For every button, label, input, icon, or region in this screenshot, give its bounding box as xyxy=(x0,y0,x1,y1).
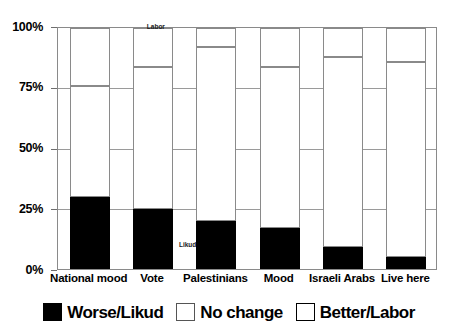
bar-segment-no-change[interactable] xyxy=(386,62,426,257)
bar-stack xyxy=(70,28,110,269)
y-tick-label: 100% xyxy=(12,21,43,34)
x-tick-label: Israeli Arabs xyxy=(309,272,375,286)
legend-swatch-white xyxy=(296,303,315,321)
bar-stack xyxy=(323,28,363,269)
bar-segment-worse-likud[interactable] xyxy=(133,209,173,269)
x-axis: National moodVotePalestiniansMoodIsraeli… xyxy=(0,272,458,288)
gridline-50 xyxy=(58,149,436,150)
chart-legend: Worse/LikudNo changeBetter/Labor xyxy=(0,297,458,327)
x-tick-label: National mood xyxy=(50,272,127,286)
bar-group[interactable] xyxy=(260,28,300,269)
bar-segment-no-change[interactable] xyxy=(260,67,300,228)
bar-group[interactable] xyxy=(133,28,173,269)
bar-stack xyxy=(196,28,236,269)
y-tick-label: 50% xyxy=(19,142,43,155)
legend-item[interactable]: No change xyxy=(176,303,282,321)
bar-segment-better-labor[interactable] xyxy=(133,28,173,67)
legend-swatch-dotted xyxy=(176,303,195,321)
bar-group[interactable] xyxy=(386,28,426,269)
legend-item[interactable]: Worse/Likud xyxy=(43,303,163,321)
bar-segment-better-labor[interactable] xyxy=(196,28,236,47)
bar-segment-better-labor[interactable] xyxy=(260,28,300,67)
bar-stack xyxy=(260,28,300,269)
bar-segment-worse-likud[interactable] xyxy=(70,197,110,269)
bar-segment-no-change[interactable] xyxy=(70,86,110,197)
bar-segment-worse-likud[interactable] xyxy=(260,228,300,269)
y-tick-label: 75% xyxy=(19,81,43,94)
x-tick-label: Live here xyxy=(381,272,430,286)
y-tick-mark xyxy=(51,270,57,271)
gridline-75 xyxy=(58,88,436,89)
legend-item[interactable]: Better/Labor xyxy=(296,303,415,321)
y-tick-label: 25% xyxy=(19,203,43,216)
bar-group[interactable] xyxy=(323,28,363,269)
legend-swatch-black xyxy=(43,303,62,321)
annotation-labor: Labor xyxy=(147,24,165,31)
legend-label: No change xyxy=(200,304,282,321)
bar-segment-worse-likud[interactable] xyxy=(386,257,426,269)
plot-area: LaborLikud xyxy=(57,27,437,270)
bar-segment-no-change[interactable] xyxy=(196,47,236,221)
bar-stack xyxy=(386,28,426,269)
x-tick-label: Mood xyxy=(264,272,294,286)
bar-segment-better-labor[interactable] xyxy=(70,28,110,86)
gridline-25 xyxy=(58,209,436,210)
bar-segment-worse-likud[interactable] xyxy=(196,221,236,269)
annotation-likud: Likud xyxy=(179,242,196,249)
bar-segment-better-labor[interactable] xyxy=(323,28,363,57)
bar-group[interactable] xyxy=(70,28,110,269)
legend-label: Worse/Likud xyxy=(67,304,163,321)
x-tick-label: Vote xyxy=(140,272,163,286)
x-tick-label: Palestinians xyxy=(183,272,248,286)
bar-segment-worse-likud[interactable] xyxy=(323,247,363,269)
legend-label: Better/Labor xyxy=(320,304,415,321)
bar-segment-no-change[interactable] xyxy=(133,67,173,209)
bar-group[interactable] xyxy=(196,28,236,269)
bar-segment-no-change[interactable] xyxy=(323,57,363,247)
bar-stack xyxy=(133,28,173,269)
stacked-bar-chart: 0%25%50%75%100% LaborLikud National mood… xyxy=(0,0,458,334)
bar-segment-better-labor[interactable] xyxy=(386,28,426,62)
